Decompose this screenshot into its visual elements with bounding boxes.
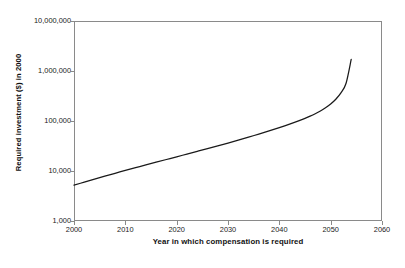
x-axis-tick-mark xyxy=(177,221,178,225)
x-axis-tick-label: 2000 xyxy=(54,225,94,234)
x-axis-tick-label: 2030 xyxy=(208,225,248,234)
line-series-required-investment xyxy=(74,59,351,185)
y-axis-tick-label: 10,000 xyxy=(1,167,71,175)
x-axis-tick-mark xyxy=(228,221,229,225)
x-axis-tick-mark xyxy=(74,221,75,225)
y-axis-tick-label: 10,000,000 xyxy=(1,17,71,25)
x-axis-tick-label: 2010 xyxy=(105,225,145,234)
y-axis-tick-label: 1,000,000 xyxy=(1,67,71,75)
x-axis-tick-label: 2050 xyxy=(311,225,351,234)
chart-container: Required investment ($) in 2000 1,00010,… xyxy=(0,0,405,268)
y-axis-tick-label: 1,000 xyxy=(1,217,71,225)
x-axis-tick-label: 2020 xyxy=(157,225,197,234)
x-axis-tick-labels: 2000201020202030204020502060 xyxy=(0,225,405,237)
x-axis-tick-label: 2060 xyxy=(362,225,402,234)
x-axis-tick-label: 2040 xyxy=(259,225,299,234)
x-axis-tick-mark xyxy=(331,221,332,225)
x-axis-title: Year in which compensation is required xyxy=(74,237,382,246)
y-axis-tick-label: 100,000 xyxy=(1,117,71,125)
x-axis-tick-mark xyxy=(382,221,383,225)
plot-series-svg xyxy=(74,21,382,221)
x-axis-tick-mark xyxy=(279,221,280,225)
x-axis-tick-mark xyxy=(125,221,126,225)
